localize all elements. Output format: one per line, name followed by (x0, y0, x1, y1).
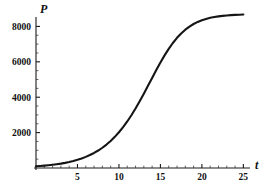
y-tick-label: 6000 (12, 57, 31, 67)
y-axis: 2000400060008000 (12, 17, 40, 170)
x-tick-label: 10 (114, 172, 124, 182)
x-tick-label: 5 (75, 172, 80, 182)
y-tick-label: 2000 (12, 128, 31, 138)
x-axis-label: t (255, 158, 259, 172)
x-tick-label: 15 (156, 172, 166, 182)
y-axis-tick-labels: 2000400060008000 (12, 22, 31, 138)
logistic-growth-chart: 2000400060008000 510152025 P t (0, 0, 270, 185)
logistic-curve (36, 15, 243, 167)
x-tick-label: 25 (239, 172, 249, 182)
data-series-group (36, 15, 243, 167)
x-axis-tick-labels: 510152025 (75, 172, 248, 182)
chart-container: 2000400060008000 510152025 P t (0, 0, 270, 185)
y-tick-label: 4000 (12, 93, 31, 103)
y-tick-label: 8000 (12, 22, 31, 32)
y-axis-label: P (40, 2, 48, 16)
x-tick-label: 20 (197, 172, 207, 182)
x-axis: 510152025 (34, 164, 250, 182)
